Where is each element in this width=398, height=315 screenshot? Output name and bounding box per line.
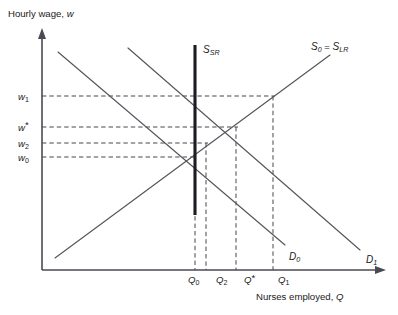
curve-label-demand-d1: D1 (366, 254, 377, 267)
quantity-label-q0: Q0 (188, 274, 199, 287)
x-axis-title: Nurses employed, Q (256, 291, 344, 302)
y-axis-title: Hourly wage, w (8, 8, 75, 19)
supply-demand-chart: Hourly wage, w Nurses employed, Q w1 w* … (0, 0, 398, 315)
wage-label-w1: w1 (18, 91, 29, 104)
supply-long-run-curve (55, 55, 330, 258)
economics-figure: Hourly wage, w Nurses employed, Q w1 w* … (0, 0, 398, 315)
quantity-label-q-star: Q* (244, 272, 255, 285)
wage-label-w-star: w* (18, 119, 29, 132)
curve-label-supply-short-run: SSR (203, 44, 220, 57)
curves (55, 45, 360, 258)
curve-label-supply-long-run: S0 = SLR (311, 41, 348, 54)
curve-labels: SSR S0 = SLR D0 D1 (203, 41, 377, 267)
quantity-label-q1: Q1 (278, 274, 289, 287)
wage-label-w2: w2 (18, 138, 29, 151)
demand-d0-curve (58, 52, 285, 245)
wage-label-w0: w0 (18, 152, 29, 165)
wage-tick-labels: w1 w* w2 w0 (18, 91, 29, 165)
quantity-label-q2: Q2 (216, 274, 227, 287)
demand-d1-curve (128, 48, 360, 250)
curve-label-demand-d0: D0 (289, 251, 300, 264)
y-axis-arrow-icon (38, 28, 46, 39)
axes (38, 28, 386, 274)
quantity-tick-labels: Q0 Q2 Q* Q1 (188, 272, 289, 287)
